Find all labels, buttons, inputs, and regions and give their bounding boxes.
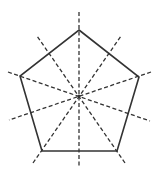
center-point (77, 94, 80, 97)
pentagon-symmetry-diagram (0, 0, 161, 176)
symmetry-lines (8, 12, 151, 168)
